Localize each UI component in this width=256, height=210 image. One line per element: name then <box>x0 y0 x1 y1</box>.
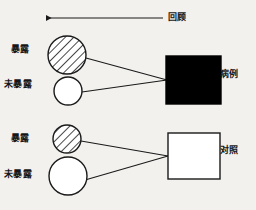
outcome-control-box <box>168 133 220 179</box>
case-control-diagram: 回顾 暴露 未暴露 暴露 未暴露 病例 对照 <box>0 0 256 210</box>
label-exposed-control: 暴露 <box>11 134 30 143</box>
diagram-canvas <box>0 0 256 210</box>
label-exposed-case: 暴露 <box>11 45 30 54</box>
node-exposed-control <box>53 125 81 153</box>
label-outcome-case: 病例 <box>220 70 239 79</box>
label-outcome-control: 对照 <box>220 146 239 155</box>
label-unexposed-control: 未暴露 <box>4 170 32 179</box>
label-unexposed-case: 未暴露 <box>4 80 32 89</box>
connector-unexposed-control <box>85 156 168 180</box>
outcome-case-box <box>166 56 221 104</box>
node-unexposed-case <box>54 77 82 105</box>
connector-exposed-case <box>86 58 167 80</box>
connector-unexposed-case <box>82 80 167 92</box>
direction-label: 回顾 <box>168 13 187 22</box>
node-unexposed-control <box>49 157 87 195</box>
connector-exposed-control <box>81 141 168 156</box>
node-exposed-case <box>48 36 86 74</box>
